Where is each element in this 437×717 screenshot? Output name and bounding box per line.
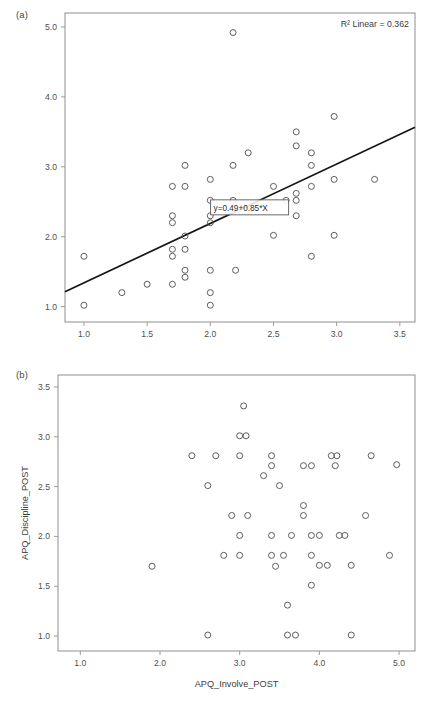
data-point-marker — [182, 183, 188, 189]
data-point-marker — [189, 453, 195, 459]
data-point-marker — [300, 503, 306, 509]
data-point-marker — [149, 563, 155, 569]
data-point-marker — [324, 562, 330, 568]
data-point-marker — [308, 532, 314, 538]
data-point-marker — [270, 232, 276, 238]
data-point-marker — [269, 463, 275, 469]
y-tick-label: 3.5 — [38, 382, 50, 392]
data-point-marker — [144, 281, 150, 287]
data-point-marker — [372, 176, 378, 182]
data-point-marker — [293, 197, 299, 203]
data-point-marker — [300, 512, 306, 518]
y-tick-label: 3.0 — [38, 432, 50, 442]
data-point-marker — [293, 190, 299, 196]
data-point-marker — [269, 552, 275, 558]
data-point-marker — [207, 267, 213, 273]
data-point-marker — [237, 552, 243, 558]
data-point-marker — [169, 183, 175, 189]
data-point-marker — [182, 246, 188, 252]
x-tick-label: 1.0 — [78, 329, 90, 339]
data-point-marker — [237, 433, 243, 439]
data-point-marker — [334, 453, 340, 459]
x-tick-label: 2.0 — [204, 329, 216, 339]
data-point-marker — [300, 463, 306, 469]
x-tick-label: 5.0 — [393, 658, 405, 668]
y-tick-label: 3.0 — [45, 162, 57, 172]
data-point-marker — [207, 176, 213, 182]
data-point-marker — [269, 532, 275, 538]
data-point-marker — [221, 552, 227, 558]
data-point-marker — [245, 150, 251, 156]
data-point-marker — [229, 512, 235, 518]
data-point-marker — [293, 213, 299, 219]
data-point-marker — [308, 183, 314, 189]
data-point-marker — [237, 453, 243, 459]
x-tick-label: 4.0 — [313, 658, 325, 668]
x-tick-label: 3.5 — [394, 329, 406, 339]
data-point-marker — [293, 129, 299, 135]
data-point-marker — [331, 113, 337, 119]
panel-a: (a) 1.01.52.02.53.03.51.02.03.04.05.0R² … — [0, 0, 437, 357]
y-tick-label: 2.5 — [38, 482, 50, 492]
plot-frame — [65, 13, 415, 322]
x-tick-label: 3.0 — [234, 658, 246, 668]
data-point-marker — [269, 453, 275, 459]
data-point-marker — [316, 532, 322, 538]
data-point-marker — [205, 483, 211, 489]
data-point-marker — [308, 162, 314, 168]
panel-b: (b) 1.02.03.04.05.01.01.52.02.53.03.5APQ… — [0, 357, 437, 717]
data-point-marker — [230, 30, 236, 36]
x-axis-title: APQ_Involve_POST — [195, 679, 279, 689]
data-point-marker — [169, 281, 175, 287]
data-point-marker — [308, 582, 314, 588]
r-squared-label: R² Linear = 0.362 — [341, 19, 409, 29]
data-point-marker — [261, 473, 267, 479]
scatter-plot-b: 1.02.03.04.05.01.01.52.02.53.03.5APQ_Inv… — [0, 357, 437, 717]
data-point-marker — [182, 162, 188, 168]
data-point-marker — [288, 532, 294, 538]
data-point-marker — [81, 302, 87, 308]
data-point-marker — [308, 253, 314, 259]
data-point-marker — [336, 532, 342, 538]
data-point-marker — [368, 453, 374, 459]
y-tick-label: 2.0 — [45, 232, 57, 242]
data-point-marker — [169, 253, 175, 259]
data-point-marker — [394, 462, 400, 468]
data-point-marker — [292, 632, 298, 638]
data-point-marker — [233, 267, 239, 273]
data-point-marker — [348, 632, 354, 638]
data-point-marker — [205, 632, 211, 638]
data-point-marker — [230, 162, 236, 168]
data-point-marker — [331, 232, 337, 238]
data-point-marker — [243, 433, 249, 439]
data-point-marker — [387, 552, 393, 558]
data-point-marker — [277, 483, 283, 489]
plot-frame — [58, 375, 415, 651]
data-point-marker — [169, 246, 175, 252]
data-point-marker — [169, 220, 175, 226]
y-tick-label: 5.0 — [45, 22, 57, 32]
x-tick-label: 2.0 — [154, 658, 166, 668]
data-point-marker — [169, 213, 175, 219]
data-point-marker — [331, 176, 337, 182]
data-point-marker — [332, 463, 338, 469]
scatter-plot-a: 1.01.52.02.53.03.51.02.03.04.05.0R² Line… — [0, 0, 437, 357]
data-point-marker — [308, 150, 314, 156]
data-point-marker — [241, 403, 247, 409]
equation-label: y=0.49+0.85*X — [214, 204, 269, 213]
data-point-marker — [342, 532, 348, 538]
y-tick-label: 4.0 — [45, 92, 57, 102]
data-point-marker — [328, 453, 334, 459]
data-point-marker — [308, 552, 314, 558]
data-point-marker — [363, 512, 369, 518]
data-point-marker — [270, 183, 276, 189]
data-point-marker — [237, 532, 243, 538]
data-point-marker — [182, 274, 188, 280]
data-point-marker — [213, 453, 219, 459]
x-tick-label: 2.5 — [268, 329, 280, 339]
data-point-marker — [119, 290, 125, 296]
x-tick-label: 1.0 — [74, 658, 86, 668]
data-point-marker — [81, 253, 87, 259]
data-point-marker — [182, 267, 188, 273]
data-point-marker — [207, 290, 213, 296]
